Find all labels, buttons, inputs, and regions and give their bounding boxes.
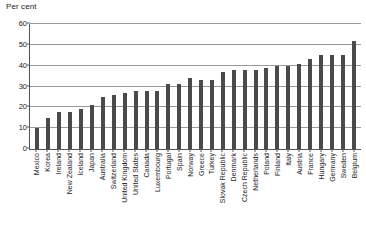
bar — [188, 78, 192, 149]
x-axis-category-slot: New Zealand — [64, 152, 75, 228]
bar — [155, 91, 159, 149]
x-axis-tick-mark — [167, 149, 168, 152]
x-axis-category-label: Greece — [197, 153, 204, 176]
x-axis-category-label: Turkey — [208, 153, 215, 174]
bar — [199, 80, 203, 149]
y-axis-unit-label: Per cent — [6, 2, 37, 11]
x-axis-category-label: Netherlands — [252, 153, 259, 191]
bar-slot — [130, 24, 141, 149]
x-axis-category-label: Norway — [186, 153, 193, 177]
x-axis-category-slot: Turkey — [206, 152, 217, 228]
x-axis-category-label: Ireland — [55, 153, 62, 174]
x-axis-tick-mark — [211, 149, 212, 152]
x-axis-category-label: Korea — [44, 153, 51, 172]
x-axis-category-slot: Slovak Republic — [217, 152, 228, 228]
x-axis-category-label: Japan — [88, 153, 95, 172]
bar-slot — [250, 24, 261, 149]
x-axis-tick-mark — [277, 149, 278, 152]
x-axis-category-slot: Norway — [184, 152, 195, 228]
bar-slot — [337, 24, 348, 149]
bar-slot — [316, 24, 327, 149]
bar-slot — [141, 24, 152, 149]
x-axis-tick-mark — [69, 149, 70, 152]
bar — [243, 70, 247, 149]
bar-slot — [43, 24, 54, 149]
bar — [166, 84, 170, 149]
bar — [145, 91, 149, 149]
bar-slot — [196, 24, 207, 149]
x-axis-tick-mark — [298, 149, 299, 152]
x-axis-category-slot: United States — [129, 152, 140, 228]
x-axis-category-slot: Hungary — [315, 152, 326, 228]
bar — [308, 59, 312, 149]
x-axis-tick-mark — [200, 149, 201, 152]
x-axis-category-slot: Italy — [283, 152, 294, 228]
bar-slot — [54, 24, 65, 149]
bar — [123, 93, 127, 149]
x-axis-category-slot: Czech Republic — [239, 152, 250, 228]
x-axis-category-label: Austria — [295, 153, 302, 175]
x-axis-category-label: Switzerland — [110, 153, 117, 189]
bars-group — [30, 24, 361, 149]
x-axis-category-slot: United Kingdom — [119, 152, 130, 228]
x-axis-category-label: Spain — [175, 153, 182, 171]
y-axis-tick-label: 50 — [19, 39, 27, 48]
bar-slot — [348, 24, 359, 149]
bar — [297, 64, 301, 149]
x-axis-category-label: Iceland — [77, 153, 84, 176]
bar-slot — [87, 24, 98, 149]
x-axis-category-label: New Zealand — [66, 153, 73, 194]
bar-slot — [76, 24, 87, 149]
x-axis-category-label: United Kingdom — [120, 153, 127, 203]
x-axis-category-slot: Poland — [261, 152, 272, 228]
x-axis-category-label: Slovak Republic — [219, 153, 226, 203]
bar — [330, 55, 334, 149]
x-axis-category-label: Hungary — [317, 153, 324, 179]
x-axis-tick-mark — [244, 149, 245, 152]
x-axis-category-slot: Greece — [195, 152, 206, 228]
x-axis-category-slot: Ireland — [53, 152, 64, 228]
x-axis-category-slot: Netherlands — [250, 152, 261, 228]
bar — [112, 95, 116, 149]
x-axis-category-slot: Germany — [326, 152, 337, 228]
bar — [90, 105, 94, 149]
x-axis-category-slot: Spain — [173, 152, 184, 228]
x-axis-tick-mark — [320, 149, 321, 152]
y-axis-tick-label: 10 — [19, 123, 27, 132]
x-axis-tick-mark — [36, 149, 37, 152]
bar — [254, 70, 258, 149]
bar-slot — [119, 24, 130, 149]
x-axis-category-slot: Austria — [294, 152, 305, 228]
y-axis-tick-label: 30 — [19, 81, 27, 90]
plot-area: 0102030405060 — [29, 24, 361, 150]
x-axis-tick-mark — [342, 149, 343, 152]
x-axis-category-label: United States — [131, 153, 138, 195]
bar-slot — [239, 24, 250, 149]
x-axis-tick-mark — [113, 149, 114, 152]
bar — [286, 66, 290, 149]
x-axis-tick-mark — [80, 149, 81, 152]
bar-slot — [283, 24, 294, 149]
x-axis-category-label: Italy — [285, 153, 292, 166]
x-axis-category-slot: Mexico — [31, 152, 42, 228]
x-axis-category-slot: Finland — [272, 152, 283, 228]
bar-slot — [65, 24, 76, 149]
x-axis-category-label: Portugal — [164, 153, 171, 179]
bar-slot — [207, 24, 218, 149]
bar — [177, 84, 181, 149]
x-axis-tick-mark — [353, 149, 354, 152]
x-axis-category-label: Denmark — [230, 153, 237, 181]
bar — [79, 109, 83, 149]
bar — [264, 68, 268, 149]
x-axis-category-slot: Australia — [97, 152, 108, 228]
x-axis-tick-mark — [47, 149, 48, 152]
x-axis-tick-mark — [58, 149, 59, 152]
x-axis-tick-mark — [123, 149, 124, 152]
x-axis-category-labels: MexicoKoreaIrelandNew ZealandIcelandJapa… — [29, 152, 361, 228]
bar-slot — [97, 24, 108, 149]
bar — [275, 66, 279, 149]
bar-slot — [272, 24, 283, 149]
bar — [210, 80, 214, 149]
x-axis-category-slot: Belgium — [348, 152, 359, 228]
bar-slot — [228, 24, 239, 149]
